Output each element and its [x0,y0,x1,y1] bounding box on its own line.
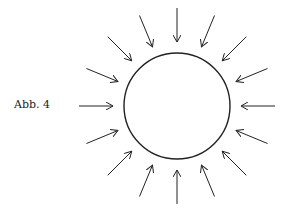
inward-arrow-icon [108,37,132,61]
inward-arrow-icon [140,16,153,47]
inward-arrow-icon [87,69,118,82]
inward-arrow-icon [236,131,267,144]
inward-arrow-icon [202,165,215,196]
inward-arrow-icon [140,165,153,196]
inward-arrow-icon [108,151,132,175]
inward-arrow-icon [87,131,118,144]
central-circle [124,53,230,159]
inward-arrow-icon [222,37,246,61]
inward-arrow-icon [202,16,215,47]
inward-arrow-icon [236,69,267,82]
arrows-group [79,8,275,204]
inward-arrow-icon [222,151,246,175]
diagram-circle-with-inward-arrows [0,0,288,215]
